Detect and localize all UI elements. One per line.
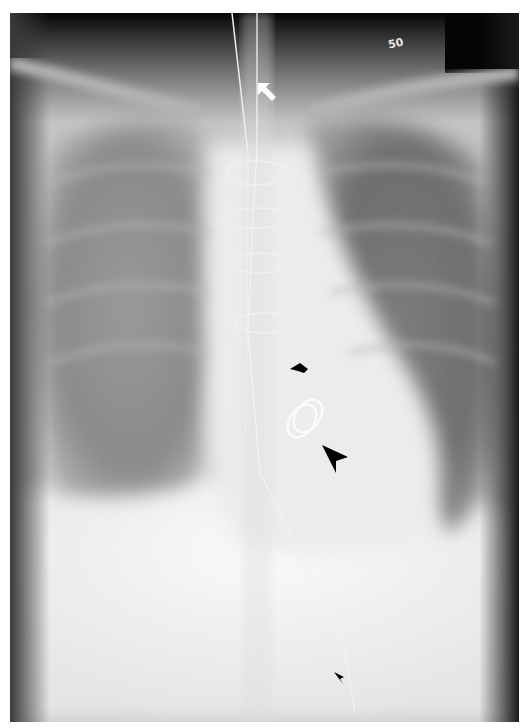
xray-image <box>10 13 519 722</box>
chest-xray-film: 50 <box>10 13 519 722</box>
right-edge-shadow <box>479 13 519 722</box>
left-edge-shadow <box>10 13 50 722</box>
